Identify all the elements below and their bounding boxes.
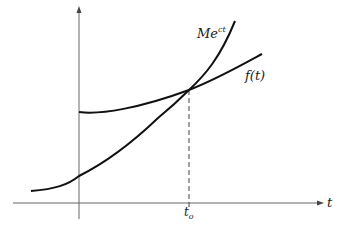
x-axis-arrow-icon: [317, 201, 324, 206]
y-axis-arrow-icon: [77, 6, 82, 13]
exponential-label: Mect: [196, 25, 226, 41]
f-curve: [79, 54, 262, 113]
f-label: f(t): [244, 68, 265, 83]
x-axis-label: t: [327, 195, 333, 210]
t0-label: to: [184, 205, 194, 221]
diagram-canvas: Mect f(t) t to: [0, 0, 343, 230]
